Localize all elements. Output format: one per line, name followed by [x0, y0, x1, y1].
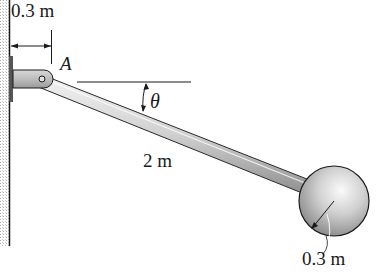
sphere [299, 166, 369, 254]
pin-bracket [13, 70, 53, 88]
rod-length-label: 2 m [143, 150, 172, 172]
pendulum-diagram: 0.3 m A θ 2 m 0.3 m [0, 0, 386, 274]
wall-plate [9, 56, 13, 102]
sphere-radius-label: 0.3 m [302, 248, 345, 270]
theta-label: θ [150, 90, 160, 113]
pin-a [39, 76, 45, 82]
theta-angle-arrow [141, 83, 149, 112]
wall [0, 0, 10, 246]
rod [36, 74, 312, 195]
top-dimension-label: 0.3 m [11, 0, 54, 22]
diagram-graphics [0, 0, 386, 274]
point-a-label: A [60, 53, 72, 75]
top-dimension [11, 30, 52, 64]
